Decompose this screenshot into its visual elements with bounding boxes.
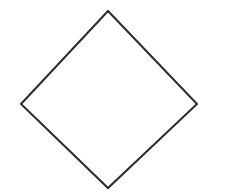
drawing-canvas [0, 0, 231, 195]
diamond-shape-figure [0, 0, 231, 195]
figure-background [0, 0, 231, 195]
